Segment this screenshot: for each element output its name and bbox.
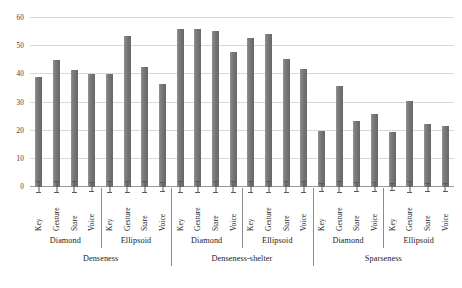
group-label-level1: Ellipsoid [242, 232, 313, 248]
bar [442, 126, 449, 187]
tick-slot: Stare [65, 189, 83, 231]
x-axis-tick-label: Key [34, 190, 43, 231]
x-axis-tick-label: Voice [158, 190, 167, 231]
group-separator [171, 188, 172, 266]
bars-layer [30, 18, 454, 187]
y-axis-tick-label: 50 [17, 42, 24, 50]
x-axis-tick-label: Gesture [123, 190, 132, 231]
y-axis-tick-label: 10 [17, 155, 24, 163]
y-axis-tick-label: 30 [17, 99, 24, 107]
bar-slot [436, 18, 454, 187]
group-label-level1: Diamond [171, 232, 242, 248]
group-separator [101, 188, 102, 248]
x-axis-group-level2-labels: DensenessDenseness-shelterSparseness [30, 250, 454, 266]
bar-slot [65, 18, 83, 187]
x-axis-tick-label: Gesture [405, 190, 414, 231]
bar [389, 132, 396, 187]
bar-slot [348, 18, 366, 187]
group-separator [313, 188, 314, 266]
bar-slot [419, 18, 437, 187]
y-axis-tick-label: 40 [17, 70, 24, 78]
tick-slot: Voice [295, 189, 313, 231]
x-axis-tick-label: Gesture [52, 190, 61, 231]
bar-slot [171, 18, 189, 187]
bar [353, 121, 360, 187]
bar-slot [383, 18, 401, 187]
plot-area [30, 18, 454, 187]
group-separator [242, 188, 243, 248]
tick-slot: Stare [419, 189, 437, 231]
tick-slot: Key [313, 189, 331, 231]
bar [212, 31, 219, 187]
group-label-level2: Sparseness [313, 250, 454, 266]
bar [177, 29, 184, 187]
bar-slot [83, 18, 101, 187]
tick-slot: Key [101, 189, 119, 231]
x-axis-tick-label: Stare [352, 190, 361, 231]
bar-slot [260, 18, 278, 187]
bar [53, 60, 60, 187]
x-axis-tick-label: Key [105, 190, 114, 231]
tick-slot: Stare [207, 189, 225, 231]
bar-slot [207, 18, 225, 187]
bar-slot [401, 18, 419, 187]
bar-slot [313, 18, 331, 187]
bar [88, 74, 95, 187]
tick-slot: Stare [136, 189, 154, 231]
x-axis-tick-label: Key [388, 190, 397, 231]
bar-slot [48, 18, 66, 187]
bar [424, 124, 431, 187]
tick-slot: Voice [154, 189, 172, 231]
x-axis-tick-label: Key [246, 190, 255, 231]
tick-slot: Gesture [118, 189, 136, 231]
group-label-level1: Ellipsoid [383, 232, 454, 248]
bar [35, 77, 42, 187]
bar [283, 59, 290, 187]
tick-slot: Stare [277, 189, 295, 231]
tick-slot: Key [30, 189, 48, 231]
x-axis-tick-label: Gesture [193, 190, 202, 231]
x-axis-tick-label: Key [176, 190, 185, 231]
bar-slot [154, 18, 172, 187]
bar-slot [277, 18, 295, 187]
bar-slot [224, 18, 242, 187]
y-axis-tick-label: 60 [17, 14, 24, 22]
x-axis-tick-label: Voice [441, 190, 450, 231]
bar [124, 36, 131, 187]
tick-slot: Gesture [48, 189, 66, 231]
tick-slot: Gesture [260, 189, 278, 231]
bar [265, 34, 272, 188]
x-axis-group-level1-labels: DiamondEllipsoidDiamondEllipsoidDiamondE… [30, 232, 454, 248]
x-axis-tick-label: Stare [140, 190, 149, 231]
tick-slot: Stare [348, 189, 366, 231]
x-axis-tick-label: Voice [299, 190, 308, 231]
bar [300, 69, 307, 187]
bar-slot [118, 18, 136, 187]
y-axis-tick-labels: 0102030405060 [0, 18, 28, 187]
bar-slot [189, 18, 207, 187]
x-axis-tick-label: Stare [211, 190, 220, 231]
bar-slot [295, 18, 313, 187]
x-axis-tick-label: Stare [70, 190, 79, 231]
tick-slot: Gesture [189, 189, 207, 231]
bar [336, 86, 343, 187]
bar-slot [242, 18, 260, 187]
bar [71, 70, 78, 187]
group-label-level2: Denseness-shelter [171, 250, 312, 266]
x-axis-tick-label: Voice [229, 190, 238, 231]
group-label-level1: Diamond [30, 232, 101, 248]
x-axis-tick-label: Stare [282, 190, 291, 231]
group-label-level1: Ellipsoid [101, 232, 172, 248]
bar-slot [330, 18, 348, 187]
bar [141, 67, 148, 187]
x-axis-tick-label: Voice [370, 190, 379, 231]
tick-slot: Voice [436, 189, 454, 231]
y-axis-tick-label: 0 [20, 183, 24, 191]
bar-chart-figure: 0102030405060 KeyGestureStareVoiceKeyGes… [0, 0, 462, 288]
bar [247, 38, 254, 187]
group-label-level2: Denseness [30, 250, 171, 266]
y-axis-tick-label: 20 [17, 127, 24, 135]
tick-slot: Key [171, 189, 189, 231]
bar-slot [101, 18, 119, 187]
x-axis-tick-label: Voice [87, 190, 96, 231]
